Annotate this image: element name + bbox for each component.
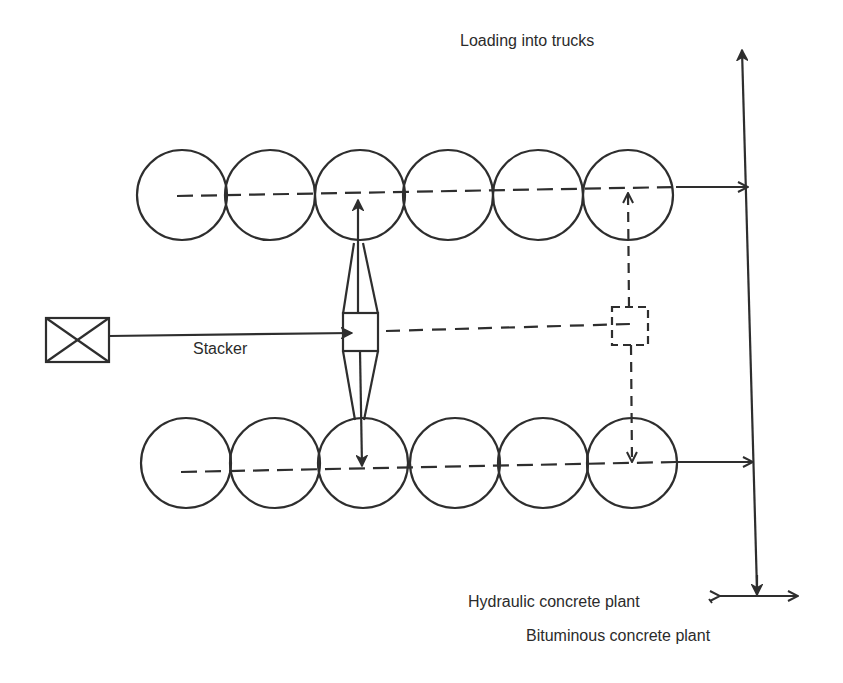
stacker-travel-dashed-line bbox=[386, 324, 630, 331]
stockpile-top-4 bbox=[403, 150, 493, 240]
stacker-alt-position-box bbox=[612, 307, 648, 345]
bituminous-concrete-plant-label: Bituminous concrete plant bbox=[526, 627, 710, 645]
stockpile-top-3 bbox=[315, 150, 405, 240]
stockpile-top-6 bbox=[583, 150, 673, 240]
bottom-reclaim-dashed-line bbox=[181, 462, 676, 472]
feed-conveyor-line bbox=[109, 333, 352, 336]
stockpile-bottom-1 bbox=[141, 418, 231, 508]
alt-boom-down-dashed bbox=[631, 345, 632, 462]
alt-boom-up-dashed bbox=[628, 193, 629, 307]
stockpile-top-5 bbox=[493, 150, 583, 240]
loading-into-trucks-label: Loading into trucks bbox=[460, 32, 594, 50]
stockpile-bottom-4 bbox=[410, 418, 500, 508]
collector-conveyor-line bbox=[742, 50, 757, 590]
feed-source-box bbox=[46, 318, 109, 362]
hydraulic-concrete-plant-label: Hydraulic concrete plant bbox=[468, 593, 640, 611]
top-stockpile-row bbox=[137, 150, 673, 240]
stacker-label: Stacker bbox=[193, 340, 247, 358]
stockpile-bottom-2 bbox=[230, 418, 320, 508]
stockpile-layout-diagram bbox=[0, 0, 843, 683]
top-reclaim-dashed-line bbox=[177, 187, 676, 196]
plant-split-tick bbox=[709, 599, 712, 603]
